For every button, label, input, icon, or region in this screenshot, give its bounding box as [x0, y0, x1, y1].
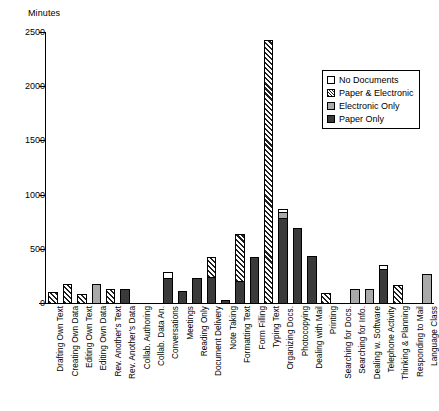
- bar-column[interactable]: [365, 289, 375, 303]
- bar-segment-mixed: [235, 234, 245, 282]
- x-axis-label: Formatting Text: [243, 306, 252, 363]
- bar-column[interactable]: [250, 257, 260, 303]
- legend-swatch-none: [327, 76, 335, 84]
- bar-segment-mixed: [393, 285, 403, 303]
- bar-segment-mixed: [106, 289, 116, 303]
- bar-column[interactable]: [393, 285, 403, 303]
- bar-segment-paper: [379, 269, 389, 303]
- x-axis-label: Editing Own Text: [85, 306, 94, 368]
- x-axis-label: Rev. Another's Data: [128, 306, 137, 379]
- x-axis-label: Conversations: [171, 306, 180, 359]
- bar-segment-electronic: [422, 274, 432, 303]
- bar-column[interactable]: [278, 209, 288, 303]
- bar-column[interactable]: [235, 234, 245, 303]
- bar-segment-paper: [221, 300, 231, 303]
- x-axis-label: Form Filling: [258, 306, 267, 349]
- bar-column[interactable]: [350, 289, 360, 303]
- bar-column[interactable]: [163, 272, 173, 303]
- y-axis-tick-label: 0: [11, 298, 45, 308]
- legend-item[interactable]: Paper Only: [327, 113, 414, 125]
- x-axis-label: Language Class: [430, 306, 439, 366]
- bar-segment-paper: [207, 277, 217, 303]
- bar-segment-paper: [178, 291, 188, 303]
- bar-column[interactable]: [192, 278, 202, 303]
- legend-item[interactable]: Paper & Electronic: [327, 87, 414, 99]
- bar-segment-paper: [192, 278, 202, 303]
- legend: No DocumentsPaper & ElectronicElectronic…: [322, 70, 420, 129]
- legend-label: No Documents: [339, 76, 399, 85]
- bar-column[interactable]: [178, 291, 188, 303]
- legend-label: Paper & Electronic: [339, 89, 414, 98]
- x-axis-label: Reading Only: [200, 306, 209, 356]
- bar-column[interactable]: [307, 256, 317, 303]
- bar-column[interactable]: [207, 257, 217, 303]
- x-axis-label: Telephone Activity: [387, 306, 396, 372]
- y-axis-tick-label: 1000: [11, 190, 45, 200]
- bar-segment-mixed: [207, 257, 217, 277]
- legend-label: Paper Only: [339, 115, 384, 124]
- x-axis-line: [45, 303, 434, 304]
- bar-column[interactable]: [106, 289, 116, 303]
- x-axis-label: Note Taking: [229, 306, 238, 350]
- bar-column[interactable]: [92, 284, 102, 303]
- legend-label: Electronic Only: [339, 102, 400, 111]
- bar-column[interactable]: [48, 292, 58, 303]
- legend-item[interactable]: Electronic Only: [327, 100, 414, 112]
- x-axis-label: Searching for Docs.: [344, 306, 353, 379]
- x-axis-label: Rev. Another's Text: [114, 306, 123, 376]
- y-axis-tick-label: 2000: [11, 81, 45, 91]
- y-axis-tick-label: 2500: [11, 27, 45, 37]
- x-axis-label: Typing Text: [272, 306, 281, 348]
- x-axis-label: Dealing with Mail: [315, 306, 324, 369]
- bar-segment-mixed: [48, 292, 58, 303]
- bar-column[interactable]: [293, 228, 303, 303]
- bar-segment-paper: [120, 289, 130, 303]
- bar-segment-electronic: [350, 289, 360, 303]
- legend-swatch-paper: [327, 115, 335, 123]
- bar-segment-paper: [235, 281, 245, 303]
- bar-segment-mixed: [264, 40, 274, 303]
- x-axis-label: Photocopying: [301, 306, 310, 356]
- y-axis-tick-label: 500: [11, 244, 45, 254]
- x-axis-label: Meetings: [186, 306, 195, 340]
- bar-segment-electronic: [92, 284, 102, 303]
- x-axis-label: Collab. Data An.: [157, 306, 166, 366]
- x-axis-label: Creating Own Data: [71, 306, 80, 376]
- bar-column[interactable]: [422, 274, 432, 303]
- bar-column[interactable]: [77, 294, 87, 303]
- bar-column[interactable]: [120, 289, 130, 303]
- bar-segment-paper: [250, 257, 260, 303]
- bar-segment-paper: [163, 278, 173, 303]
- bar-segment-paper: [278, 218, 288, 303]
- x-axis-label: Thinking & Planning: [401, 306, 410, 380]
- bar-segment-paper: [293, 228, 303, 303]
- legend-item[interactable]: No Documents: [327, 74, 414, 86]
- x-axis-label: Organizing Docs.: [286, 306, 295, 370]
- legend-swatch-electronic: [327, 102, 335, 110]
- bar-column[interactable]: [221, 300, 231, 303]
- bar-segment-mixed: [63, 284, 73, 303]
- x-axis-label: Dealing w. Software: [373, 306, 382, 379]
- x-axis-label: Responding to Mail: [416, 306, 425, 377]
- bar-chart: Minutes 05001000150020002500 Drafting Ow…: [0, 0, 439, 411]
- y-axis-title: Minutes: [28, 8, 60, 18]
- x-axis-label: Document Delivery: [214, 306, 223, 376]
- bar-column[interactable]: [379, 265, 389, 303]
- bar-column[interactable]: [63, 284, 73, 303]
- legend-swatch-mixed: [327, 89, 335, 97]
- x-axis-label: Drafting Own Text: [56, 306, 65, 372]
- x-axis-label: Printing: [329, 306, 338, 334]
- bar-segment-electronic: [365, 289, 375, 303]
- bar-segment-paper: [307, 256, 317, 303]
- x-axis-label: Editing Own Data: [99, 306, 108, 371]
- bar-column[interactable]: [321, 293, 331, 303]
- x-axis-label: Searching for Info.: [358, 306, 367, 374]
- x-axis-labels: Drafting Own TextCreating Own DataEditin…: [46, 306, 434, 410]
- y-axis-tick-label: 1500: [11, 135, 45, 145]
- x-axis-label: Collab. Authoring: [143, 306, 152, 369]
- bar-segment-mixed: [321, 293, 331, 303]
- bar-segment-mixed: [77, 294, 87, 303]
- bar-column[interactable]: [264, 40, 274, 303]
